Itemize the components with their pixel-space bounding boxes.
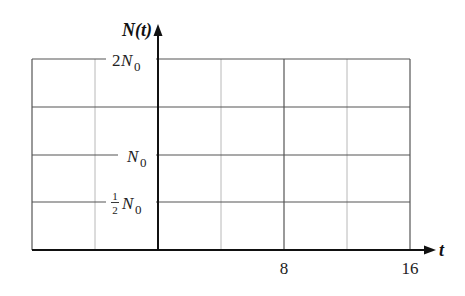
y-tick-2n0-coef: 2 bbox=[112, 51, 121, 70]
y-tick-half-main: N bbox=[121, 194, 135, 213]
chart: N(t) t 2 N 0 N 0 1 2 N 0 8 16 bbox=[0, 0, 465, 296]
y-tick-n0-main: N bbox=[126, 147, 140, 166]
x-axis-arrow-icon bbox=[424, 246, 436, 255]
x-axis-label: t bbox=[439, 240, 445, 260]
y-tick-n0-sub: 0 bbox=[140, 155, 147, 170]
y-tick-half-num: 1 bbox=[112, 190, 118, 202]
y-tick-2n0-sub: 0 bbox=[134, 59, 141, 74]
y-axis-label: N(t) bbox=[121, 20, 152, 41]
y-tick-half-sub: 0 bbox=[135, 202, 142, 217]
y-axis-arrow-icon bbox=[154, 24, 163, 36]
y-tick-half-den: 2 bbox=[112, 204, 118, 216]
x-tick-16: 16 bbox=[402, 259, 419, 278]
x-tick-8: 8 bbox=[280, 259, 289, 278]
y-tick-2n0-main: N bbox=[120, 51, 134, 70]
